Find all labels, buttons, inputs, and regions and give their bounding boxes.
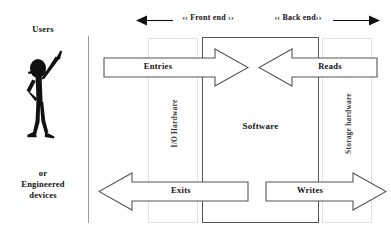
back-end-span-label: ‹‹ Back end›› xyxy=(262,13,334,22)
writes-label: Writes xyxy=(265,185,355,195)
engineered-devices-label: or Engineered devices xyxy=(2,168,84,201)
entries-label: Entries xyxy=(103,61,213,71)
stick-figure-person-icon xyxy=(18,48,74,144)
front-end-span-label: ‹‹ Front end ›› xyxy=(170,13,246,22)
exits-label: Exits xyxy=(126,185,236,195)
diagram-left-boundary xyxy=(88,36,89,223)
software-label: Software xyxy=(202,121,319,131)
reads-label: Reads xyxy=(286,61,374,71)
diagram-canvas: Users xyxy=(0,0,391,239)
